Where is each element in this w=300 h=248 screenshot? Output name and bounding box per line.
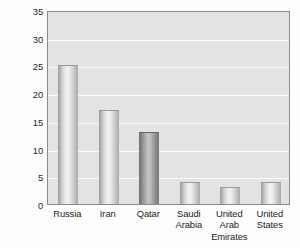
bar — [99, 110, 119, 204]
bar-series — [48, 12, 289, 204]
bar — [220, 187, 240, 204]
bar — [139, 132, 159, 204]
y-axis-tick-label: 35 — [22, 6, 43, 17]
bar — [180, 182, 200, 204]
bar — [58, 65, 78, 204]
bar — [261, 182, 281, 204]
y-axis-tick-label: 0 — [22, 200, 43, 211]
y-axis-tick-label: 5 — [22, 172, 43, 183]
y-axis-tick-labels: 05101520253035 — [22, 4, 43, 212]
y-axis-tick-label: 25 — [22, 61, 43, 72]
y-axis-tick-label: 15 — [22, 116, 43, 127]
plot-area — [47, 11, 290, 205]
y-axis-tick-label: 20 — [22, 89, 43, 100]
y-axis-tick-label: 10 — [22, 144, 43, 155]
y-axis-tick-label: 30 — [22, 33, 43, 44]
x-axis-tick-labels: RussiaIranQatarSaudi ArabiaUnited Arab E… — [47, 208, 290, 248]
x-axis-tick-label: United States — [244, 208, 297, 231]
bar-chart-figure: Percent of world natural gas reserves, 2… — [0, 0, 300, 248]
